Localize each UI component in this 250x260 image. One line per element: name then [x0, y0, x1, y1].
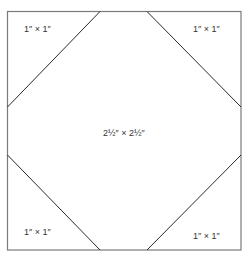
corner-label-top-left: 1″ × 1″ [24, 24, 51, 34]
corner-label-top-right: 1″ × 1″ [193, 24, 220, 34]
corner-label-bottom-left: 1″ × 1″ [24, 227, 51, 237]
corner-label-bottom-right: 1″ × 1″ [193, 231, 220, 241]
center-label: 2½″ × 2½″ [103, 128, 145, 138]
